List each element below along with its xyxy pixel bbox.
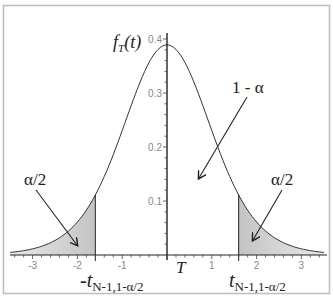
t-distribution-chart: -3-2-1123 0.10.20.30.4 fT(t) T 1 - α α/2…: [0, 0, 333, 299]
center-area-label: 1 - α: [232, 78, 264, 97]
y-axis-label: fT(t): [113, 32, 141, 54]
x-axis-label: T: [176, 258, 187, 277]
y-tick-label: 0.4: [148, 34, 162, 45]
left-tail-label: α/2: [24, 170, 46, 189]
x-tick-label: -3: [28, 260, 37, 271]
y-tick-label: 0.2: [148, 142, 162, 153]
x-tick-label: 2: [254, 260, 260, 271]
y-tick-label: 0.3: [148, 88, 162, 99]
x-tick-label: -1: [118, 260, 127, 271]
x-tick-label: 3: [299, 260, 305, 271]
x-tick-label: 1: [209, 260, 215, 271]
y-tick-label: 0.1: [148, 196, 162, 207]
right-tail-label: α/2: [271, 170, 293, 189]
